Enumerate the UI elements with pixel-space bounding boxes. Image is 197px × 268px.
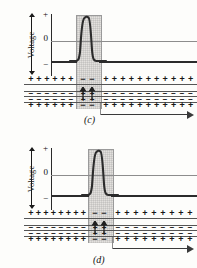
action-potential-spike <box>70 14 106 64</box>
charge-row-outer-bottom: ++++++++−−+++++++++ <box>24 235 197 244</box>
y-tick-minus: − <box>34 59 48 69</box>
y-axis-double-arrow-icon <box>31 147 32 209</box>
y-tick-plus: + <box>34 9 48 19</box>
action-potential-spike <box>82 148 118 198</box>
propagation-direction-arrow <box>113 244 194 253</box>
charge-row-outer-bottom: ++++++−−+++++++++++ <box>24 101 197 110</box>
axon-membrane-c: ++++++−−+++++++++++ −−−−−−++−−−−−−−−−−− … <box>24 76 197 110</box>
panel-d: Voltage + 0 − ++++++++−−+++++++++ −−−−−−… <box>0 134 197 268</box>
voltage-axis-spine <box>51 148 52 210</box>
figure-canvas: Voltage + 0 − ++++++−−+++++++++++ −−−−−−… <box>0 0 197 268</box>
y-tick-plus: + <box>34 143 48 153</box>
y-tick-minus: − <box>34 193 48 203</box>
resting-potential-trace-right <box>111 195 197 197</box>
charge-row-outer-top: ++++++++−−+++++++++ <box>24 209 197 218</box>
panel-c: Voltage + 0 − ++++++−−+++++++++++ −−−−−−… <box>0 0 197 134</box>
voltage-axis-spine <box>51 14 52 76</box>
axon-membrane-d: ++++++++−−+++++++++ −−−−−−−−++−−−−−−−−− … <box>24 210 197 244</box>
propagation-direction-arrow <box>101 110 194 119</box>
membrane-line-outer-top <box>24 218 197 219</box>
ion-flow-arrows-icon <box>89 221 111 235</box>
y-axis-double-arrow-icon <box>31 13 32 75</box>
y-tick-zero: 0 <box>34 167 48 177</box>
y-tick-zero: 0 <box>34 33 48 43</box>
panel-caption-d: (d) <box>93 254 105 265</box>
charge-row-outer-top: ++++++−−+++++++++++ <box>24 75 197 84</box>
ion-flow-arrows-icon <box>77 87 99 101</box>
membrane-line-outer-top <box>24 84 197 85</box>
zero-voltage-line <box>51 175 197 176</box>
panel-caption-c: (c) <box>84 114 95 125</box>
resting-potential-trace-right <box>99 61 197 63</box>
